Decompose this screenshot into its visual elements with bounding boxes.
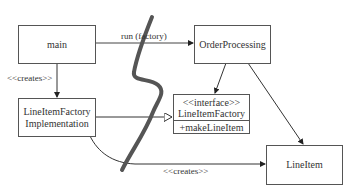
factory-impl-label-line2: Implementation	[25, 118, 88, 130]
order-processing-label: OrderProcessing	[199, 39, 266, 51]
interface-stereotype: <<interface>>	[174, 97, 249, 108]
factory-interface-box: <<interface>> LineItemFactory +makeLineI…	[173, 94, 250, 134]
impl-creates-label: <<creates>>	[163, 166, 208, 176]
line-item-box: LineItem	[266, 145, 343, 185]
interface-header: <<interface>> LineItemFactory	[174, 95, 249, 121]
orderprocessing-to-interface-arrow	[215, 63, 226, 93]
factory-impl-label-line1: LineItemFactory	[23, 106, 90, 118]
main-creates-label: <<creates>>	[7, 73, 52, 83]
main-label: main	[47, 39, 67, 51]
interface-name: LineItemFactory	[174, 108, 249, 119]
impl-creates-arrow	[90, 136, 265, 164]
main-box: main	[18, 25, 96, 64]
uml-diagram: main OrderProcessing LineItemFactory Imp…	[0, 0, 348, 189]
line-item-label: LineItem	[286, 159, 323, 171]
orderprocessing-to-lineitem-arrow	[248, 63, 303, 144]
order-processing-box: OrderProcessing	[194, 25, 271, 64]
run-factory-label: run (factory)	[121, 31, 167, 41]
interface-operation: +makeLineItem	[174, 121, 249, 134]
factory-impl-box: LineItemFactory Implementation	[18, 98, 96, 137]
